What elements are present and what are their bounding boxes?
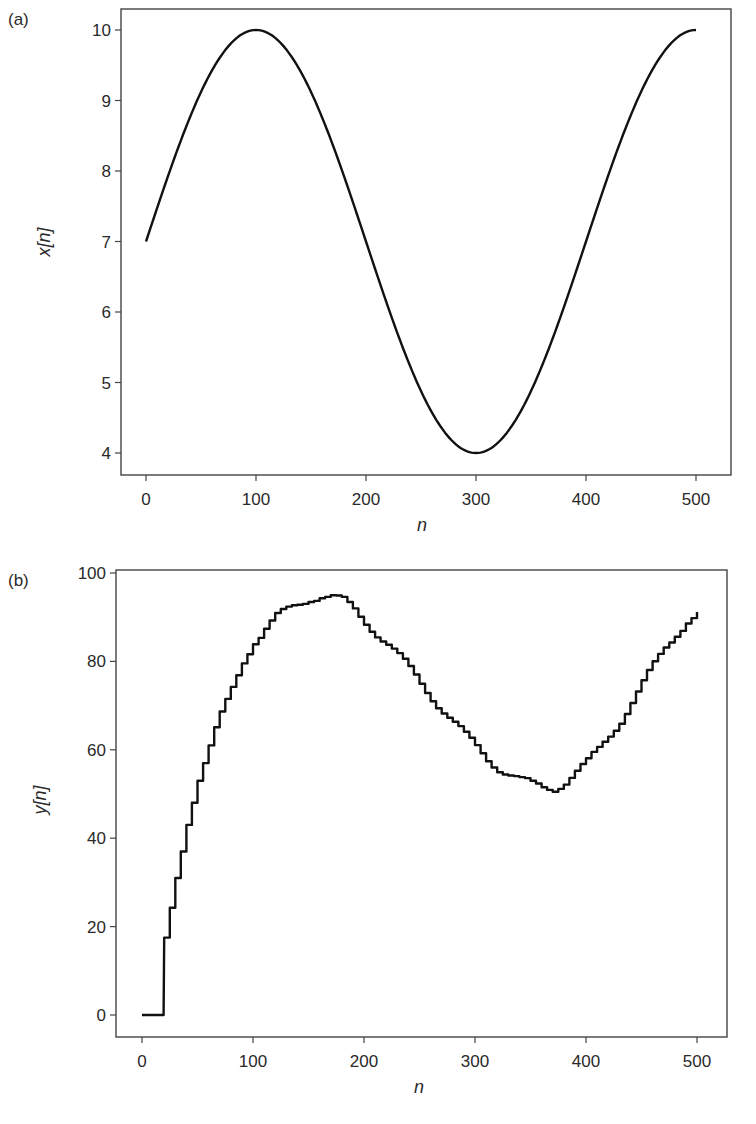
y-tick-label: 4 [102, 444, 111, 463]
y-tick-label: 7 [102, 233, 111, 252]
y-tick-label: 0 [97, 1006, 106, 1025]
panel-label-a: (a) [8, 10, 29, 29]
y-axis-label-a: x[n] [34, 226, 54, 257]
y-tick-label: 100 [78, 564, 106, 583]
series-line-y [142, 595, 697, 1015]
x-tick-label: 0 [141, 490, 150, 509]
x-tick-label: 300 [461, 1052, 489, 1071]
x-tick-label: 400 [572, 490, 600, 509]
x-tick-label: 200 [352, 490, 380, 509]
series-line-x [146, 30, 696, 453]
x-tick-label: 100 [242, 490, 270, 509]
x-tick-label: 200 [350, 1052, 378, 1071]
x-tick-label: 0 [137, 1052, 146, 1071]
y-axis-ticks-b: 020406080100 [78, 564, 116, 1025]
y-tick-label: 9 [102, 92, 111, 111]
y-axis-ticks-a: 45678910 [92, 21, 121, 463]
plot-frame-b [116, 570, 727, 1037]
plot-frame-a [121, 9, 731, 475]
panel-label-b: (b) [8, 571, 29, 590]
chart-panel-b: (b) 020406080100 0100200300400500 y[n] n [8, 564, 727, 1097]
x-tick-label: 300 [462, 490, 490, 509]
y-tick-label: 10 [92, 21, 111, 40]
x-tick-label: 100 [239, 1052, 267, 1071]
y-axis-label-b: y[n] [30, 784, 50, 816]
y-tick-label: 40 [87, 829, 106, 848]
y-tick-label: 20 [87, 918, 106, 937]
x-axis-label-a: n [417, 515, 427, 535]
figure: (a) 45678910 0100200300400500 x[n] n (b)… [0, 0, 756, 1124]
x-axis-ticks-b: 0100200300400500 [137, 1037, 711, 1071]
chart-panel-a: (a) 45678910 0100200300400500 x[n] n [8, 9, 731, 535]
x-axis-ticks-a: 0100200300400500 [141, 475, 710, 509]
y-tick-label: 80 [87, 652, 106, 671]
x-tick-label: 500 [683, 1052, 711, 1071]
x-tick-label: 500 [682, 490, 710, 509]
x-axis-label-b: n [414, 1077, 424, 1097]
x-tick-label: 400 [572, 1052, 600, 1071]
y-tick-label: 5 [102, 374, 111, 393]
y-tick-label: 8 [102, 162, 111, 181]
y-tick-label: 6 [102, 303, 111, 322]
y-tick-label: 60 [87, 741, 106, 760]
